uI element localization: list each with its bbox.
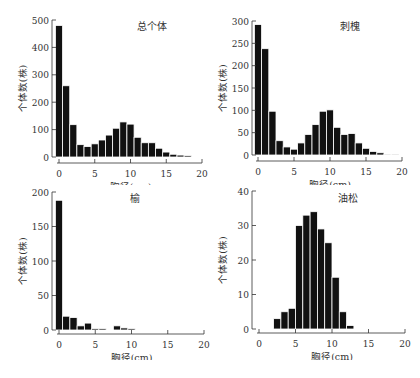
histogram-pine: 01020304005101520胸径(cm)个体数(株)油松	[210, 175, 420, 360]
histogram-bar	[269, 111, 276, 155]
y-tick-label: 200	[32, 188, 49, 198]
histogram-bar	[312, 125, 319, 155]
histogram-bar	[283, 147, 290, 155]
histogram-bar	[70, 125, 77, 157]
histogram-bar	[303, 215, 310, 329]
y-tick-label: 100	[232, 106, 249, 116]
y-tick-label: 150	[32, 222, 49, 232]
y-tick-label: 300	[32, 70, 49, 80]
histogram-bar	[120, 122, 127, 157]
x-axis-label: 胸径(cm)	[111, 352, 153, 360]
histogram-bar	[274, 319, 281, 329]
y-tick-label: 100	[32, 125, 49, 135]
y-axis-label: 个体数(株)	[217, 236, 228, 283]
histogram-bar	[334, 127, 341, 155]
y-tick-label: 50	[238, 128, 250, 138]
histogram-bar	[332, 277, 339, 329]
histogram-bar	[55, 200, 62, 330]
histogram-bar	[296, 226, 303, 330]
histogram-bar	[98, 140, 105, 157]
histogram-bar	[262, 49, 269, 155]
histogram-bar	[177, 155, 184, 157]
y-tick-label: 400	[32, 43, 49, 53]
histogram-bar	[55, 25, 62, 157]
histogram-bar	[184, 156, 191, 157]
histogram-bar	[141, 143, 148, 157]
histogram-bar	[254, 25, 261, 155]
histogram-bar	[391, 154, 398, 155]
histogram-bar	[113, 128, 120, 157]
histogram-bar	[362, 148, 369, 155]
x-tick-label: 15	[162, 340, 174, 350]
x-tick-label: 5	[293, 339, 299, 349]
chart-panel-robinia: 05010015020025030005101520胸径(cm)个体数(株)刺槐	[210, 0, 420, 185]
panel-title: 油松	[338, 192, 358, 204]
histogram-bar	[347, 326, 354, 329]
histogram-bar	[163, 152, 170, 157]
panel-title: 榆	[130, 192, 140, 204]
y-tick-label: 200	[32, 98, 49, 108]
y-tick-label: 250	[232, 39, 249, 49]
histogram-bar	[339, 312, 346, 329]
x-tick-label: 20	[399, 339, 411, 349]
histogram-bar	[298, 143, 305, 155]
histogram-bar	[319, 111, 326, 155]
y-tick-label: 20	[238, 256, 250, 266]
histogram-elm: 05010015020005101520胸径(cm)个体数(株)榆	[0, 175, 210, 360]
y-tick-label: 50	[38, 291, 50, 301]
histogram-bar	[290, 149, 297, 155]
panel-title: 总个体	[137, 20, 167, 32]
y-tick-label: 300	[232, 17, 249, 27]
y-axis-label: 个体数(株)	[17, 65, 28, 112]
y-axis-label: 个体数(株)	[17, 237, 28, 284]
y-tick-label: 40	[238, 187, 250, 197]
histogram-bar	[148, 143, 155, 157]
histogram-total: 010020030040050005101520胸径(cm)个体数(株)总个体	[0, 0, 210, 185]
histogram-bar	[134, 137, 141, 157]
x-tick-label: 0	[56, 340, 62, 350]
histogram-bar	[305, 134, 312, 155]
x-tick-label: 0	[256, 339, 262, 349]
x-tick-label: 10	[326, 339, 338, 349]
chart-panel-total: 010020030040050005101520胸径(cm)个体数(株)总个体	[0, 0, 210, 185]
histogram-bar	[341, 134, 348, 155]
panel-title: 刺槐	[340, 20, 360, 32]
x-tick-label: 5	[92, 340, 98, 350]
histogram-bar	[355, 143, 362, 155]
y-tick-label: 200	[232, 61, 249, 71]
histogram-bar	[63, 316, 70, 330]
histogram-bar	[276, 141, 283, 155]
y-tick-label: 30	[238, 221, 250, 231]
histogram-bar	[63, 86, 70, 157]
y-tick-label: 0	[43, 153, 49, 163]
histogram-bar	[91, 144, 98, 157]
y-tick-label: 0	[243, 151, 249, 161]
y-tick-label: 100	[32, 257, 49, 267]
histogram-bar	[70, 318, 77, 330]
histogram-bar	[377, 153, 384, 155]
histogram-bar	[325, 243, 332, 329]
chart-panel-pine: 01020304005101520胸径(cm)个体数(株)油松	[210, 175, 420, 360]
histogram-robinia: 05010015020025030005101520胸径(cm)个体数(株)刺槐	[210, 0, 420, 185]
x-axis-label: 胸径(cm)	[311, 351, 353, 360]
histogram-bar	[77, 326, 84, 330]
histogram-bar	[317, 229, 324, 329]
histogram-bar	[113, 326, 120, 330]
x-tick-label: 10	[126, 340, 138, 350]
histogram-bar	[99, 329, 106, 330]
histogram-bar	[310, 212, 317, 329]
y-tick-label: 500	[32, 16, 49, 26]
chart-panel-elm: 05010015020005101520胸径(cm)个体数(株)榆	[0, 175, 210, 360]
histogram-bar	[370, 151, 377, 155]
histogram-bar	[281, 312, 288, 329]
histogram-bar	[348, 134, 355, 155]
histogram-bar	[384, 154, 391, 155]
x-tick-label: 20	[198, 340, 210, 350]
histogram-bar	[127, 124, 134, 157]
histogram-bar	[156, 148, 163, 157]
x-tick-label: 15	[363, 339, 375, 349]
histogram-bar	[121, 328, 128, 330]
histogram-bar	[77, 145, 84, 157]
histogram-bar	[92, 329, 99, 330]
histogram-bar	[105, 135, 112, 157]
